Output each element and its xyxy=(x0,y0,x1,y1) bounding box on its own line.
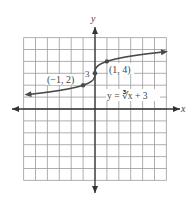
y-axis-label: y xyxy=(90,13,96,24)
x-axis-label: x xyxy=(180,103,186,114)
y-axis-up-arrow-icon xyxy=(92,27,98,34)
x-axis-left-arrow-icon xyxy=(12,106,19,112)
curve-right-arrow-icon xyxy=(161,49,168,55)
curve-left-arrow-icon xyxy=(24,91,31,97)
function-graph: x y (−1, 2) 3 (1, 4) y = ∛x + 3 xyxy=(0,0,190,202)
axes: x y xyxy=(12,13,186,193)
point-neg1-2 xyxy=(81,83,85,87)
equation-label: y = ∛x + 3 xyxy=(107,90,148,101)
y-axis-down-arrow-icon xyxy=(92,186,98,193)
point-label-1-4: (1, 4) xyxy=(109,64,131,76)
y-intercept-label: 3 xyxy=(85,69,90,79)
point-label-neg1-2: (−1, 2) xyxy=(47,74,74,86)
point-1-4 xyxy=(105,59,109,63)
point-y-intercept xyxy=(93,71,97,75)
x-axis-right-arrow-icon xyxy=(173,106,180,112)
